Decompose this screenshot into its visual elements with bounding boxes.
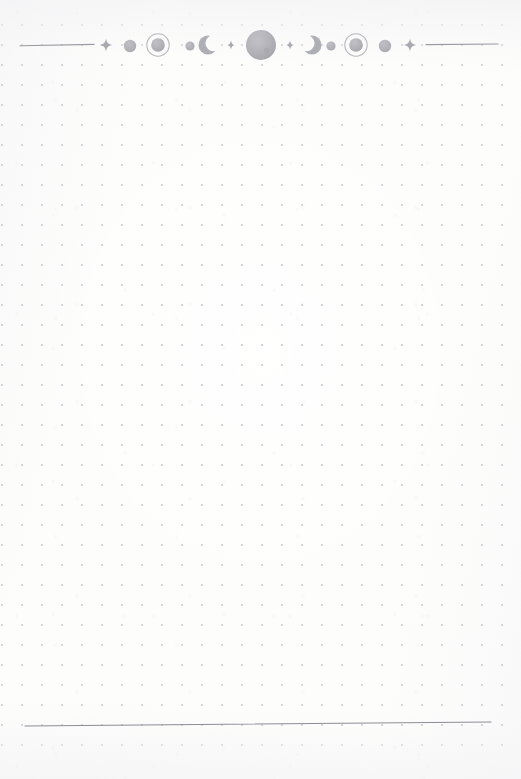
notebook-page: Dotted Grid Notebook Page <box>0 0 521 779</box>
celestial-header-divider <box>0 22 521 68</box>
planet-icon-tiny-left <box>185 41 194 50</box>
planet-icon-tiny-right <box>326 41 335 50</box>
header-rule-right <box>426 44 498 45</box>
sparkle-icon-right-outer <box>404 39 417 51</box>
sparkle-icon-right-inner <box>284 40 295 49</box>
planet-icon-small-right <box>379 40 391 52</box>
ringed-planet-icon-left <box>147 34 169 56</box>
writing-area[interactable] <box>0 0 1 1</box>
paper-texture-overlay <box>0 0 521 779</box>
page-title: Dotted Grid Notebook Page <box>0 0 1 1</box>
sparkle-icon-left-inner <box>225 40 236 49</box>
sparkle-icon-left-outer <box>100 39 113 51</box>
header-rule-left <box>20 44 94 45</box>
footer-divider-rule <box>0 706 521 746</box>
crescent-moon-icon-waning <box>298 30 328 60</box>
crescent-moon-icon-waxing <box>196 30 226 60</box>
planet-icon-large-center <box>246 30 276 60</box>
planet-icon-small-left <box>124 40 136 52</box>
paper-grain-overlay <box>0 0 521 779</box>
ringed-planet-icon-right <box>345 34 367 56</box>
dot-grid <box>0 0 521 779</box>
